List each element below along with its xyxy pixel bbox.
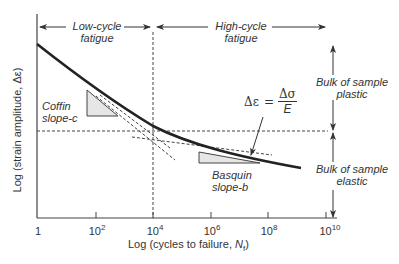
plastic-asymptote-dashed [96,96,175,160]
low-cycle-fatigue-label: Low-cycle fatigue [70,20,124,44]
x-axis-label-var: N [235,238,243,250]
coffin-slope-label: Coffin slope-c [42,100,77,124]
bulk-elastic-line2: elastic [306,175,398,187]
formula-pointer-arrow [251,117,263,155]
basquin-line2: slope-b [212,181,252,193]
x-tick-base: 10 [147,225,159,237]
x-tick-1e8: 108 [261,225,278,237]
formula-lhs: Δε [244,95,259,109]
low-cycle-line2: fatigue [70,32,124,44]
high-cycle-line2: fatigue [211,32,271,44]
formula-numerator: Δσ [278,87,297,102]
x-tick-base: 10 [319,225,331,237]
x-tick-1e10: 1010 [319,225,340,237]
x-tick-base: 10 [261,225,273,237]
basquin-line1: Basquin [212,169,252,181]
bulk-elastic-label: Bulk of sample elastic [306,163,398,187]
low-cycle-line1: Low-cycle [70,20,124,32]
formula-denominator: E [283,102,291,116]
coffin-line2: slope-c [42,112,77,124]
basquin-slope-label: Basquin slope-b [212,169,252,193]
axes [37,14,337,218]
dashed-reference-lines [37,32,328,218]
x-tick-exp: 10 [332,223,341,232]
y-axis-label: Log (strain amplitude, Δε) [11,68,23,193]
elastic-strain-formula: Δε = Δσ E [244,87,297,116]
x-tick-base: 1 [35,225,41,237]
bulk-plastic-label: Bulk of sample plastic [306,76,398,100]
x-axis-ticks [96,212,326,218]
x-tick-exp: 6 [216,223,220,232]
bulk-plastic-line1: Bulk of sample [306,76,398,88]
x-tick-1e2: 102 [89,225,106,237]
x-tick-1e4: 104 [147,225,164,237]
x-axis-label: Log (cycles to failure, Nf) [128,238,249,253]
coffin-line1: Coffin [42,100,77,112]
x-tick-base: 10 [89,225,101,237]
formula-fraction: Δσ E [278,87,297,116]
bulk-plastic-line2: plastic [306,88,398,100]
x-tick-exp: 4 [159,223,163,232]
bulk-elastic-line1: Bulk of sample [306,163,398,175]
high-cycle-fatigue-label: High-cycle fatigue [211,20,271,44]
x-tick-exp: 8 [273,223,277,232]
x-tick-1: 1 [35,225,41,237]
x-tick-base: 10 [204,225,216,237]
x-tick-exp: 2 [101,223,105,232]
x-tick-1e6: 106 [204,225,221,237]
x-axis-label-end: ) [245,238,249,250]
high-cycle-line1: High-cycle [211,20,271,32]
formula-equals: = [264,95,274,109]
x-axis-label-text: Log (cycles to failure, [128,238,235,250]
